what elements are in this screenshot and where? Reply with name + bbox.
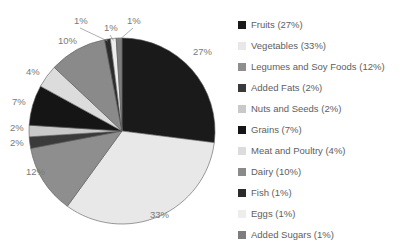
legend-color-swatch — [238, 42, 246, 50]
pie-slice-label: 4% — [26, 66, 40, 77]
legend-item-label: Nuts and Seeds (2%) — [251, 103, 341, 114]
pie-slice-label: 2% — [10, 122, 24, 133]
legend-item[interactable]: Meat and Poultry (4%) — [238, 140, 401, 161]
legend-item[interactable]: Eggs (1%) — [238, 203, 401, 224]
legend-item-label: Fish (1%) — [251, 187, 292, 198]
pie-slice-label: 27% — [193, 46, 213, 57]
legend-item-label: Eggs (1%) — [251, 208, 295, 219]
legend-item[interactable]: Legumes and Soy Foods (12%) — [238, 56, 401, 77]
legend-color-swatch — [238, 168, 246, 176]
legend-item-label: Added Sugars (1%) — [251, 229, 334, 240]
legend-color-swatch — [238, 63, 246, 71]
pie-slice-label: 2% — [10, 137, 24, 148]
legend-item-label: Grains (7%) — [251, 124, 302, 135]
legend-color-swatch — [238, 126, 246, 134]
legend-item[interactable]: Nuts and Seeds (2%) — [238, 98, 401, 119]
legend-item[interactable]: Added Fats (2%) — [238, 77, 401, 98]
legend-item[interactable]: Fruits (27%) — [238, 14, 401, 35]
pie-slice-label: 12% — [26, 166, 46, 177]
legend-color-swatch — [238, 105, 246, 113]
legend-item-label: Added Fats (2%) — [251, 82, 322, 93]
pie-slice-label: 10% — [58, 35, 78, 46]
legend-item-label: Vegetables (33%) — [251, 40, 326, 51]
pie-slice-label: 1% — [74, 15, 88, 26]
legend-item-label: Meat and Poultry (4%) — [251, 145, 346, 156]
legend-item-label: Dairy (10%) — [251, 166, 301, 177]
legend-item[interactable]: Vegetables (33%) — [238, 35, 401, 56]
chart-legend: Fruits (27%)Vegetables (33%)Legumes and … — [238, 14, 401, 245]
legend-color-swatch — [238, 84, 246, 92]
pie-slices-group — [29, 38, 215, 224]
legend-color-swatch — [238, 210, 246, 218]
pie-slice-label: 1% — [104, 22, 118, 33]
legend-item[interactable]: Dairy (10%) — [238, 161, 401, 182]
legend-color-swatch — [238, 21, 246, 29]
pie-chart-figure: 27%33%12%2%2%7%4%10%1%1%1% Fruits (27%)V… — [0, 0, 403, 251]
legend-item[interactable]: Added Sugars (1%) — [238, 224, 401, 245]
legend-color-swatch — [238, 231, 246, 239]
pie-slice-label: 7% — [12, 96, 26, 107]
legend-color-swatch — [238, 189, 246, 197]
pie-slice-label: 33% — [150, 209, 170, 220]
legend-item-label: Legumes and Soy Foods (12%) — [251, 61, 385, 72]
legend-color-swatch — [238, 147, 246, 155]
legend-item[interactable]: Grains (7%) — [238, 119, 401, 140]
legend-item[interactable]: Fish (1%) — [238, 182, 401, 203]
legend-item-label: Fruits (27%) — [251, 19, 303, 30]
pie-slice-label: 1% — [127, 15, 141, 26]
